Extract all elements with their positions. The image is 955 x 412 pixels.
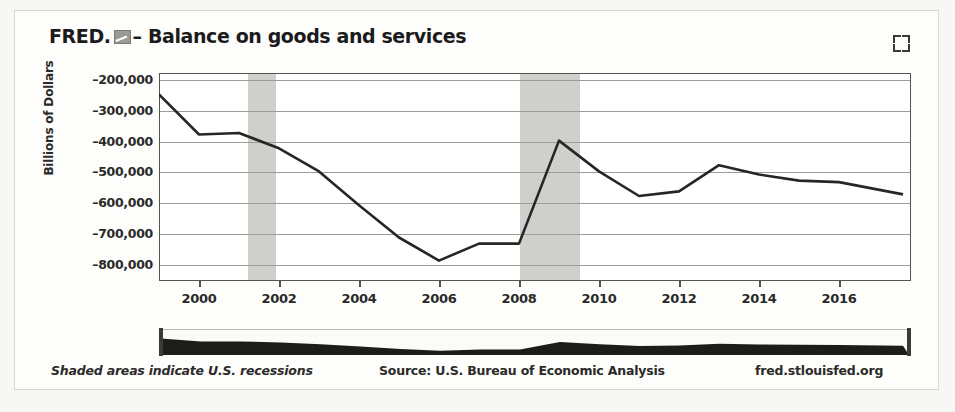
x-axis-tick-label: 2004 (342, 291, 377, 306)
chart-footer: Shaded areas indicate U.S. recessions So… (15, 363, 938, 391)
data-line-series (159, 73, 909, 279)
x-axis-tick-label: 2014 (742, 291, 777, 306)
x-axis-tick (279, 281, 281, 287)
x-axis-tick (599, 281, 601, 287)
x-axis-tick (359, 281, 361, 287)
x-axis-tick-label: 2008 (502, 291, 537, 306)
y-axis-tick-label: –800,000 (67, 256, 153, 271)
y-axis-labels: –200,000–300,000–400,000–500,000–600,000… (61, 73, 153, 279)
series-polyline (159, 95, 903, 261)
chart-card: FRED.– Balance on goods and services Bil… (14, 10, 939, 390)
y-axis-tick-label: –200,000 (67, 72, 153, 87)
x-axis-tick (759, 281, 761, 287)
y-axis-tick-label: –700,000 (67, 225, 153, 240)
x-axis-tick (679, 281, 681, 287)
x-axis-tick (439, 281, 441, 287)
y-axis-tick-label: –500,000 (67, 164, 153, 179)
fred-url: fred.stlouisfed.org (755, 363, 883, 378)
x-axis-tick-label: 2002 (262, 291, 297, 306)
x-axis-tick (839, 281, 841, 287)
x-axis-tick-label: 2012 (662, 291, 697, 306)
recession-note: Shaded areas indicate U.S. recessions (51, 363, 313, 378)
x-axis-tick-label: 2000 (182, 291, 217, 306)
fred-chart-screenshot: FRED.– Balance on goods and services Bil… (0, 0, 955, 412)
left-range-handle[interactable] (159, 328, 163, 356)
x-axis-tick-label: 2010 (582, 291, 617, 306)
source-label: Source: U.S. Bureau of Economic Analysis (379, 363, 665, 378)
range-selector-area (161, 339, 909, 355)
y-axis-tick-label: –400,000 (67, 133, 153, 148)
x-axis-tick-label: 2006 (422, 291, 457, 306)
y-axis-tick-label: –600,000 (67, 195, 153, 210)
x-axis-tick (519, 281, 521, 287)
x-axis-tick (199, 281, 201, 287)
right-range-handle[interactable] (907, 328, 911, 356)
x-axis-labels: 200020022004200620082010201220142016 (159, 281, 909, 307)
y-axis-tick-label: –300,000 (67, 102, 153, 117)
range-selector[interactable] (161, 329, 909, 355)
range-selector-preview (161, 329, 909, 355)
x-axis-tick-label: 2016 (822, 291, 857, 306)
